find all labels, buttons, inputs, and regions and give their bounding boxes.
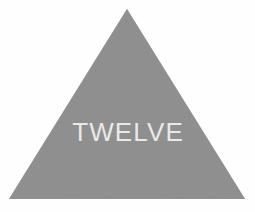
triangle-shape (0, 0, 255, 212)
shape-label: TWELVE (0, 119, 255, 145)
figure-canvas: TWELVE (0, 0, 255, 212)
